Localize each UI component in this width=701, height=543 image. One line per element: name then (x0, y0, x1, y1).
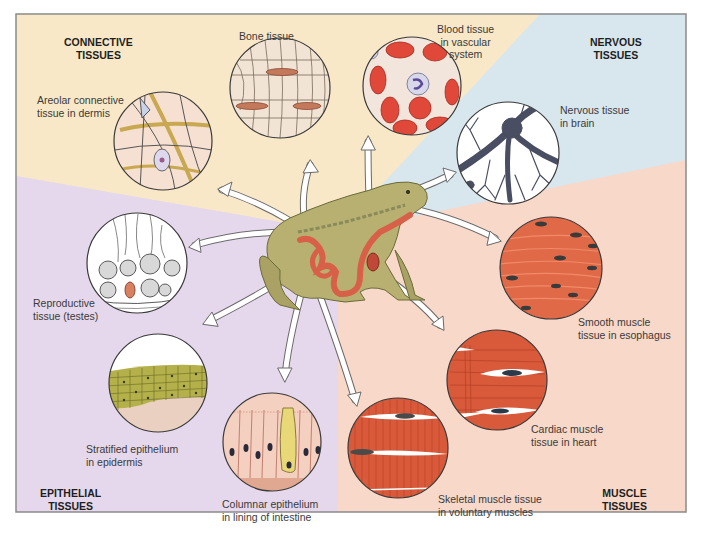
tissue-diagram: CONNECTIVE TISSUES NERVOUS TISSUES MUSCL… (0, 0, 701, 543)
reproductive-label: Reproductive tissue (testes) (33, 297, 98, 322)
areolar-label: Areolar connective tissue in dermis (37, 94, 124, 119)
connective-tissues-heading: CONNECTIVE TISSUES (64, 36, 133, 62)
columnar-epithelium-label: Columnar epithelium in lining of intesti… (222, 498, 318, 523)
stratified-epithelium-label: Stratified epithelium in epidermis (86, 443, 178, 468)
reproductive-tissue-micrograph (87, 213, 187, 313)
epithelial-tissues-heading: EPITHELIAL TISSUES (40, 487, 101, 513)
smooth-muscle-label: Smooth muscle tissue in esophagus (578, 316, 671, 341)
bone-tissue-micrograph (230, 38, 330, 138)
skeletal-muscle-micrograph (348, 398, 448, 498)
muscle-tissues-heading: MUSCLE TISSUES (602, 487, 647, 513)
nervous-tissue-micrograph (455, 102, 560, 204)
nervous-label: Nervous tissue in brain (560, 104, 629, 129)
nervous-tissues-heading: NERVOUS TISSUES (590, 36, 642, 62)
cardiac-muscle-label: Cardiac muscle tissue in heart (531, 423, 603, 448)
skeletal-muscle-label: Skeletal muscle tissue in voluntary musc… (438, 493, 542, 518)
bone-label: Bone tissue (239, 30, 294, 43)
blood-label: Blood tissue in vascular system (437, 23, 494, 61)
